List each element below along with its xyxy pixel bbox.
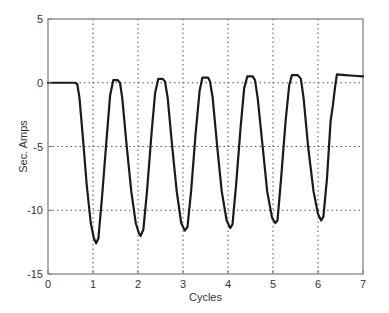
y-tick-label: 0 (37, 77, 43, 89)
x-tick-label: 7 (360, 278, 366, 290)
y-tick-label: -10 (27, 204, 43, 216)
x-tick-label: 6 (315, 278, 321, 290)
x-tick-label: 4 (225, 278, 231, 290)
y-tick-label: -5 (33, 141, 43, 153)
series-line (48, 74, 363, 243)
data-series (48, 74, 363, 243)
x-tick-label: 5 (270, 278, 276, 290)
x-tick-label: 1 (90, 278, 96, 290)
x-tick-label: 3 (180, 278, 186, 290)
x-axis-ticks: 01234567 (45, 270, 366, 290)
y-tick-label: -15 (27, 268, 43, 280)
x-axis-label: Cycles (189, 291, 223, 303)
x-tick-label: 0 (45, 278, 51, 290)
chart: 01234567 50-5-10-15 Cycles Sec. Amps (0, 0, 389, 313)
y-tick-label: 5 (37, 13, 43, 25)
grid-lines (48, 19, 363, 274)
x-tick-label: 2 (135, 278, 141, 290)
y-axis-label: Sec. Amps (17, 120, 29, 173)
